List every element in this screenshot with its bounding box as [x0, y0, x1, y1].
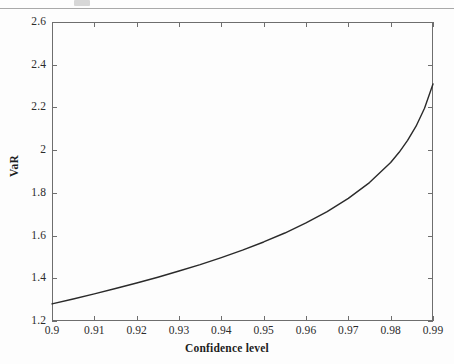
y-axis-title: VaR	[8, 136, 20, 196]
y-tick-mark	[428, 278, 433, 279]
y-tick-mark	[52, 236, 57, 237]
x-tick-label: 0.99	[411, 324, 454, 336]
y-tick-label: 2.6	[6, 15, 46, 27]
x-tick-label: 0.97	[326, 324, 370, 336]
x-tick-label: 0.96	[284, 324, 328, 336]
var-curve	[52, 22, 433, 321]
x-tick-mark	[179, 22, 180, 27]
x-tick-mark	[433, 316, 434, 321]
x-tick-label: 0.94	[199, 324, 243, 336]
x-tick-mark	[137, 316, 138, 321]
x-tick-mark	[179, 316, 180, 321]
x-tick-mark	[306, 22, 307, 27]
y-tick-mark	[428, 65, 433, 66]
y-tick-label: 1.6	[6, 229, 46, 241]
x-tick-mark	[264, 22, 265, 27]
y-tick-mark	[52, 278, 57, 279]
scan-artifact-smudge	[74, 0, 90, 6]
x-tick-mark	[94, 316, 95, 321]
x-tick-mark	[137, 22, 138, 27]
plot-area	[52, 22, 433, 321]
y-tick-mark	[428, 107, 433, 108]
x-tick-label: 0.91	[72, 324, 116, 336]
y-tick-mark	[52, 22, 57, 23]
y-tick-label: 1.2	[6, 314, 46, 326]
x-tick-mark	[348, 316, 349, 321]
x-tick-label: 0.95	[242, 324, 286, 336]
y-tick-mark	[428, 321, 433, 322]
x-tick-label: 0.92	[115, 324, 159, 336]
y-tick-label: 2.4	[6, 58, 46, 70]
x-tick-mark	[391, 316, 392, 321]
x-tick-mark	[264, 316, 265, 321]
y-tick-mark	[52, 65, 57, 66]
y-tick-mark	[428, 236, 433, 237]
x-tick-label: 0.93	[157, 324, 201, 336]
scan-artifact-rule	[0, 8, 454, 9]
x-tick-mark	[306, 316, 307, 321]
x-tick-mark	[221, 316, 222, 321]
x-tick-label: 0.98	[369, 324, 413, 336]
y-tick-mark	[52, 107, 57, 108]
x-tick-mark	[391, 22, 392, 27]
y-tick-mark	[428, 150, 433, 151]
x-tick-mark	[221, 22, 222, 27]
figure-canvas: 0.90.910.920.930.940.950.960.970.980.991…	[0, 0, 454, 364]
y-tick-mark	[428, 22, 433, 23]
x-axis-title: Confidence level	[0, 342, 454, 354]
y-tick-label: 2.2	[6, 100, 46, 112]
y-tick-mark	[428, 193, 433, 194]
x-tick-mark	[348, 22, 349, 27]
y-tick-mark	[52, 150, 57, 151]
x-tick-mark	[433, 22, 434, 27]
y-tick-mark	[52, 321, 57, 322]
y-tick-label: 1.4	[6, 271, 46, 283]
x-tick-mark	[94, 22, 95, 27]
y-tick-mark	[52, 193, 57, 194]
